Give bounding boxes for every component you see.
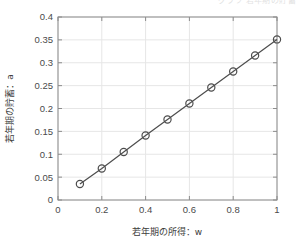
y-tick-label: 0.15	[35, 126, 54, 137]
x-tick-label: 0	[55, 204, 60, 215]
x-axis-title: 若年期の所得：w	[132, 226, 202, 237]
y-axis-title: 若年期の貯蓄：a	[4, 74, 15, 143]
y-tick-label: 0.35	[35, 34, 54, 45]
y-tick-label: 0.25	[35, 80, 54, 91]
figure-canvas: グラフ 若年期の貯蓄	[0, 0, 296, 242]
y-axis-tick-labels: 0 0.05 0.1 0.15 0.2 0.25 0.3 0.35 0.4	[35, 11, 54, 205]
y-tick-label: 0.4	[40, 11, 53, 22]
x-tick-label: 0.4	[139, 204, 152, 215]
x-axis-tick-labels: 0 0.2 0.4 0.6 0.8 1	[55, 204, 279, 215]
y-tick-label: 0	[48, 194, 53, 205]
x-tick-label: 0.2	[95, 204, 108, 215]
x-tick-label: 0.8	[227, 204, 240, 215]
x-tick-label: 0.6	[183, 204, 196, 215]
x-tick-label: 1	[274, 204, 279, 215]
y-tick-label: 0.05	[35, 172, 54, 183]
y-tick-label: 0.2	[40, 103, 53, 114]
y-tick-label: 0.1	[40, 149, 53, 160]
y-tick-label: 0.3	[40, 57, 53, 68]
chart-plot: 0 0.05 0.1 0.15 0.2 0.25 0.3 0.35 0.4 0 …	[0, 0, 296, 242]
